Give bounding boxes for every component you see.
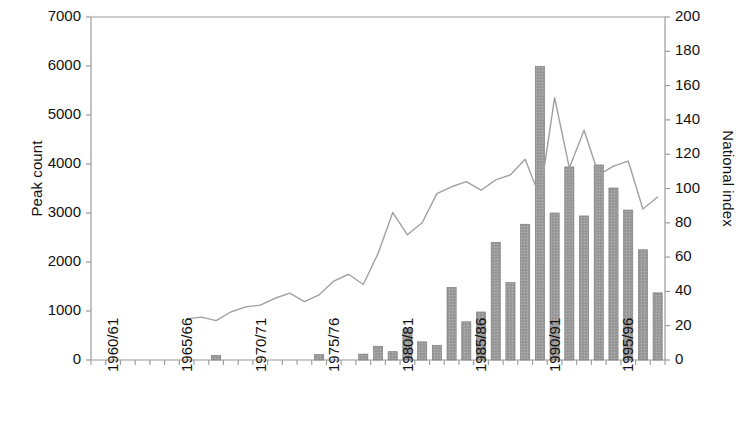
y-axis-left-tick-label: 7000	[25, 7, 81, 24]
x-axis-tick-label: 1990/91	[546, 318, 563, 372]
x-axis-tick-label: 1960/61	[104, 318, 121, 372]
y-axis-left-tick-label: 1000	[25, 301, 81, 318]
y-axis-right-tick-label: 180	[675, 41, 731, 58]
bar	[535, 66, 544, 360]
x-axis-tick-label: 1995/96	[619, 318, 636, 372]
bar	[579, 216, 588, 360]
bar	[212, 356, 221, 360]
chart-plot-area	[0, 0, 750, 441]
x-axis-tick-label: 1965/66	[178, 318, 195, 372]
bar	[315, 355, 324, 360]
y-axis-right-tick-label: 20	[675, 316, 731, 333]
y-axis-left-tick-label: 6000	[25, 56, 81, 73]
bar	[491, 242, 500, 360]
bar	[594, 165, 603, 360]
bar	[565, 167, 574, 360]
y-axis-right-tick-label: 0	[675, 350, 731, 367]
bar	[521, 224, 530, 360]
y-axis-right-tick-label: 100	[675, 179, 731, 196]
chart-container: Peak count National index 01000200030004…	[0, 0, 750, 441]
x-axis-tick-label: 1975/76	[325, 318, 342, 372]
y-axis-left-tick-label: 4000	[25, 154, 81, 171]
x-axis-tick-label: 1980/81	[399, 318, 416, 372]
y-axis-right-tick-label: 140	[675, 110, 731, 127]
bar	[447, 287, 456, 360]
y-axis-right-tick-label: 80	[675, 213, 731, 230]
bars-layer	[212, 66, 663, 360]
y-axis-left-tick-label: 3000	[25, 203, 81, 220]
y-axis-left-tick-label: 5000	[25, 105, 81, 122]
bar	[609, 188, 618, 360]
y-axis-left-tick-label: 0	[25, 350, 81, 367]
x-axis-tick-label: 1985/86	[472, 318, 489, 372]
bar	[638, 250, 647, 360]
x-axis-tick-label: 1970/71	[252, 318, 269, 372]
y-axis-right-tick-label: 120	[675, 144, 731, 161]
y-axis-right-tick-label: 200	[675, 7, 731, 24]
y-axis-right-tick-label: 40	[675, 281, 731, 298]
y-axis-right-tick-label: 60	[675, 247, 731, 264]
bar	[359, 354, 368, 360]
bar	[432, 345, 441, 360]
bar	[506, 283, 515, 360]
bar	[418, 342, 427, 360]
bar	[388, 352, 397, 360]
y-axis-left-tick-label: 2000	[25, 252, 81, 269]
bar	[462, 322, 471, 360]
y-axis-right-tick-label: 160	[675, 76, 731, 93]
bar	[373, 346, 382, 360]
bar	[653, 293, 662, 360]
